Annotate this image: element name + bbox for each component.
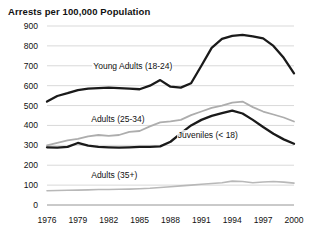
y-axis-tick-label: 500 xyxy=(8,101,38,111)
y-axis-tick-label: 200 xyxy=(8,160,38,170)
series-label: Juveniles (< 18) xyxy=(177,130,239,140)
y-axis-tick-label: 900 xyxy=(8,21,38,31)
series-lines xyxy=(47,35,294,191)
plot-area xyxy=(47,26,294,205)
y-axis-tick-label: 400 xyxy=(8,120,38,130)
y-axis-tick-label: 100 xyxy=(8,180,38,190)
y-axis-tick-label: 0 xyxy=(8,200,38,210)
series-label: Adults (25-34) xyxy=(90,114,145,124)
series-line xyxy=(47,181,294,191)
y-axis-tick-label: 300 xyxy=(8,140,38,150)
x-axis-tick-label: 2000 xyxy=(274,215,309,225)
y-axis-tick-label: 800 xyxy=(8,41,38,51)
chart-title: Arrests per 100,000 Population xyxy=(8,6,150,17)
series-line xyxy=(47,111,294,148)
y-axis-tick-label: 600 xyxy=(8,81,38,91)
y-axis-tick-label: 700 xyxy=(8,61,38,71)
chart-svg xyxy=(47,26,294,205)
gridlines xyxy=(47,26,294,205)
series-label: Young Adults (18-24) xyxy=(92,61,173,71)
chart-container: Arrests per 100,000 Population 010020030… xyxy=(0,0,309,236)
series-label: Adults (35+) xyxy=(90,170,138,180)
